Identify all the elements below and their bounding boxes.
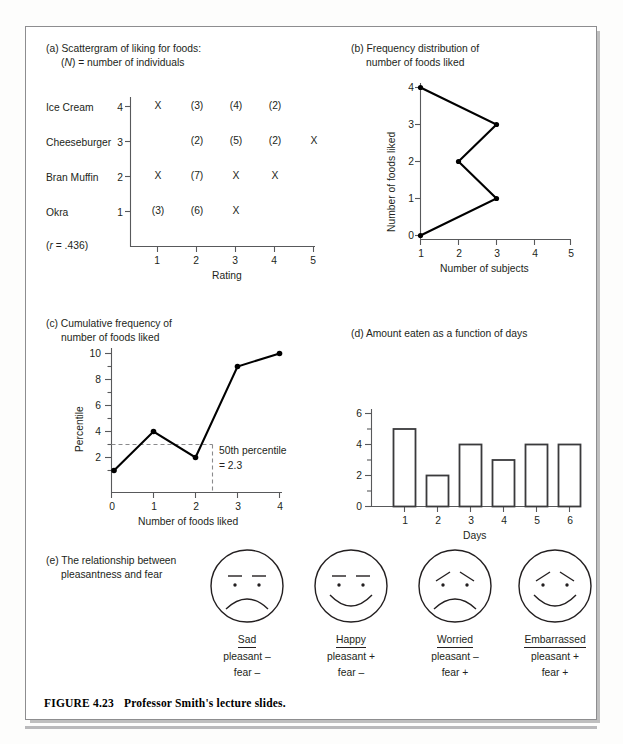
panel-d-bar-3 bbox=[460, 445, 482, 507]
panel-d-ytick-0: 0 bbox=[342, 501, 362, 512]
face-card-embarrassed: Embarrassed pleasant + fear + bbox=[500, 547, 610, 680]
face-embarrassed-line1: pleasant + bbox=[500, 650, 610, 664]
panel-d-ytick-4: 4 bbox=[342, 439, 362, 450]
panel-d-ytick-6: 6 bbox=[342, 408, 362, 419]
face-happy-line2: fear – bbox=[296, 666, 406, 680]
panel-d-xtick-3: 3 bbox=[461, 515, 481, 526]
figure-caption-text: Professor Smith's lecture slides. bbox=[124, 697, 286, 709]
face-name-happy: Happy bbox=[336, 633, 366, 648]
sad-face-icon bbox=[208, 547, 286, 625]
panel-d-xtick-4: 4 bbox=[494, 515, 514, 526]
embarrassed-face-icon bbox=[516, 547, 594, 625]
slide-frame: (a) Scattergram of liking for foods: (N)… bbox=[25, 26, 597, 720]
panel-d-xtick-6: 6 bbox=[560, 515, 580, 526]
face-name-embarrassed: Embarrassed bbox=[524, 633, 585, 648]
caption-divider bbox=[25, 726, 597, 729]
face-worried-line2: fear + bbox=[400, 666, 510, 680]
panel-d-ytick-2: 2 bbox=[342, 470, 362, 481]
face-name-worried: Worried bbox=[437, 633, 473, 648]
figure-number: FIGURE 4.23 bbox=[44, 697, 114, 709]
panel-d-xaxis-label: Days bbox=[463, 530, 486, 541]
face-sad-line1: pleasant – bbox=[192, 650, 302, 664]
face-sad-line2: fear – bbox=[192, 666, 302, 680]
panel-e-title-line2: pleasantness and fear bbox=[61, 568, 162, 582]
panel-d-xtick-1: 1 bbox=[395, 515, 415, 526]
face-card-sad: Sad pleasant – fear – bbox=[192, 547, 302, 680]
panel-e-title-line1: (e) The relationship between bbox=[46, 554, 176, 568]
panel-d-bar-4 bbox=[493, 460, 515, 507]
face-card-happy: Happy pleasant + fear – bbox=[296, 547, 406, 680]
panel-d-bar-5 bbox=[526, 445, 548, 507]
face-happy-line1: pleasant + bbox=[296, 650, 406, 664]
face-embarrassed-line2: fear + bbox=[500, 666, 610, 680]
figure-caption: FIGURE 4.23Professor Smith's lecture sli… bbox=[44, 697, 464, 709]
panel-d-plot bbox=[26, 27, 596, 547]
figure-page: (a) Scattergram of liking for foods: (N)… bbox=[0, 0, 623, 744]
panel-d-bar-2 bbox=[427, 476, 449, 507]
panel-d-xtick-2: 2 bbox=[428, 515, 448, 526]
happy-face-icon bbox=[312, 547, 390, 625]
panel-d-bar-1 bbox=[394, 429, 416, 507]
worried-face-icon bbox=[416, 547, 494, 625]
face-worried-line1: pleasant – bbox=[400, 650, 510, 664]
face-card-worried: Worried pleasant – fear + bbox=[400, 547, 510, 680]
panel-d-xtick-5: 5 bbox=[527, 515, 547, 526]
face-name-sad: Sad bbox=[238, 633, 256, 648]
panel-d-bar-6 bbox=[559, 445, 581, 507]
